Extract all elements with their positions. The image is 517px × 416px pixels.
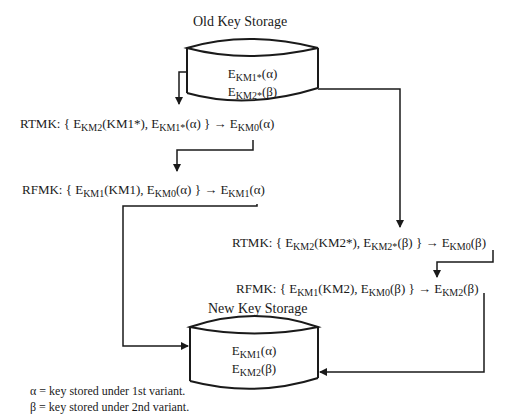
old-storage-title: Old Key Storage xyxy=(193,15,287,29)
legend-beta: β = key stored under 2nd variant. xyxy=(30,401,189,413)
arrow-step3-to-step4 xyxy=(437,250,493,277)
new-storage-entry-2: EKM2(β) xyxy=(190,362,318,378)
arrow-step1-to-step2 xyxy=(177,140,253,171)
arrow-old-to-step1 xyxy=(179,72,187,104)
old-storage-entry-1: EKM1*(α) xyxy=(187,67,318,83)
step-3-rtmk: RTMK: { EKM2(KM2*), EKM2*(β) } → EKM0(β) xyxy=(232,236,486,252)
new-storage-entry-1: EKM1(α) xyxy=(190,344,318,360)
new-storage-title: New Key Storage xyxy=(208,302,308,316)
arrow-step4-to-new xyxy=(320,293,484,372)
old-storage-entry-2: EKM2*(β) xyxy=(187,85,318,101)
step-2-rfmk: RFMK: { EKM1(KM1), EKM0(α) } → EKM1(α) xyxy=(22,183,265,199)
arrow-old-to-step3 xyxy=(318,89,400,227)
step-4-rfmk: RFMK: { EKM1(KM2), EKM0(β) } → EKM2(β) xyxy=(236,282,479,298)
step-1-rtmk: RTMK: { EKM2(KM1*), EKM1*(α) } → EKM0(α) xyxy=(20,117,274,133)
legend-alpha: α = key stored under 1st variant. xyxy=(30,385,185,397)
arrow-step2-to-new xyxy=(123,204,257,346)
